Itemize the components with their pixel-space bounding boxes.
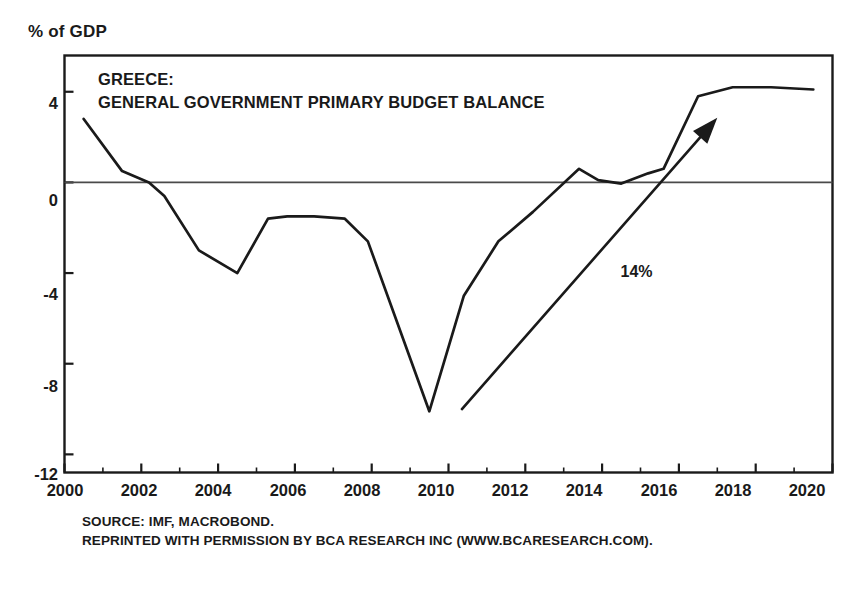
source-line-1: SOURCE: IMF, MACROBOND. (82, 512, 653, 531)
y-tick-label-neg4: -4 (12, 285, 58, 304)
x-tick-label-2020: 2020 (789, 481, 826, 500)
plot-frame (65, 56, 833, 473)
chart-title-line-1: GREECE: (98, 68, 545, 91)
y-axis-tick-labels: 4 0 -4 -8 -12 (0, 0, 58, 589)
x-tick-label-2008: 2008 (344, 481, 381, 500)
x-tick-label-2004: 2004 (195, 481, 232, 500)
y-tick-label-0: 0 (12, 191, 58, 210)
y-tick-label-neg8: -8 (12, 377, 58, 396)
chart-figure: % of GDP GREECE: GENERAL GOVERNMENT PRIM… (0, 0, 865, 589)
x-tick-label-2000: 2000 (47, 481, 84, 500)
x-tick-label-2010: 2010 (418, 481, 455, 500)
chart-title: GREECE: GENERAL GOVERNMENT PRIMARY BUDGE… (98, 68, 545, 114)
y-tick-label-4: 4 (12, 94, 58, 113)
x-tick-label-2014: 2014 (566, 481, 603, 500)
x-tick-label-2006: 2006 (270, 481, 307, 500)
source-line-2: REPRINTED WITH PERMISSION BY BCA RESEARC… (82, 531, 653, 550)
source-note: SOURCE: IMF, MACROBOND. REPRINTED WITH P… (82, 512, 653, 550)
chart-title-line-2: GENERAL GOVERNMENT PRIMARY BUDGET BALANC… (98, 91, 545, 114)
axis-ticks-major (65, 92, 833, 473)
x-tick-label-2018: 2018 (715, 481, 752, 500)
x-tick-label-2012: 2012 (492, 481, 529, 500)
annotation-arrow (462, 118, 717, 409)
x-tick-label-2016: 2016 (641, 481, 678, 500)
x-tick-label-2002: 2002 (121, 481, 158, 500)
annotation-label-14-percent: 14% (621, 263, 653, 281)
